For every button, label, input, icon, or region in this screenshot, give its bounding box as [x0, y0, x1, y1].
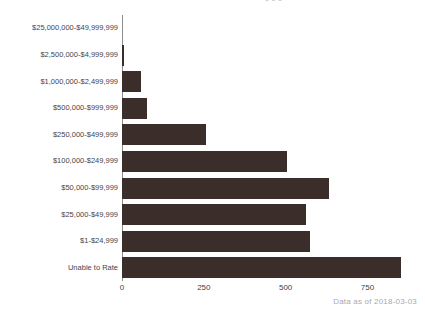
bar	[122, 151, 287, 172]
bar	[122, 45, 124, 66]
x-axis-tick: 250	[197, 283, 210, 292]
x-axis-tick: 750	[361, 283, 374, 292]
y-axis-label: $50,000-$99,999	[6, 183, 118, 193]
y-axis-label: $250,000-$499,999	[6, 130, 118, 140]
x-axis-tick-labels: 0250500750	[122, 283, 410, 297]
y-axis-label: $25,000,000-$49,999,999	[6, 23, 118, 33]
bar-row	[122, 68, 410, 95]
bar	[122, 124, 206, 145]
y-axis-label: $2,500,000-$4,999,999	[6, 50, 118, 60]
y-axis-label: $500,000-$999,999	[6, 103, 118, 113]
y-axis-label: Unable to Rate	[6, 263, 118, 273]
bar	[122, 178, 329, 199]
bar	[122, 98, 147, 119]
clipped-chart-title-text: o o o	[265, 0, 425, 3]
bar	[122, 257, 401, 278]
bar-row	[122, 175, 410, 202]
bar-chart-figure: o o o $25,000,000-$49,999,999$2,500,000-…	[0, 0, 425, 318]
bar	[122, 71, 141, 92]
bar-row	[122, 254, 410, 281]
y-axis-category-labels: $25,000,000-$49,999,999$2,500,000-$4,999…	[0, 15, 118, 281]
y-axis-label: $1-$24,999	[6, 236, 118, 246]
bar-row	[122, 95, 410, 122]
bar-row	[122, 228, 410, 255]
bar-row	[122, 15, 410, 42]
x-axis-tick: 500	[279, 283, 292, 292]
y-axis-label: $100,000-$249,999	[6, 156, 118, 166]
plot-area	[122, 15, 410, 281]
clipped-chart-title: o o o	[265, 0, 425, 3]
bar	[122, 204, 306, 225]
bar	[122, 231, 310, 252]
bar-row	[122, 148, 410, 175]
data-as-of-note: Data as of 2018-03-03	[333, 297, 417, 306]
bar-row	[122, 42, 410, 69]
x-axis-tick: 0	[120, 283, 124, 292]
bar-row	[122, 201, 410, 228]
bar-row	[122, 121, 410, 148]
y-axis-label: $25,000-$49,999	[6, 210, 118, 220]
y-axis-label: $1,000,000-$2,499,999	[6, 77, 118, 87]
